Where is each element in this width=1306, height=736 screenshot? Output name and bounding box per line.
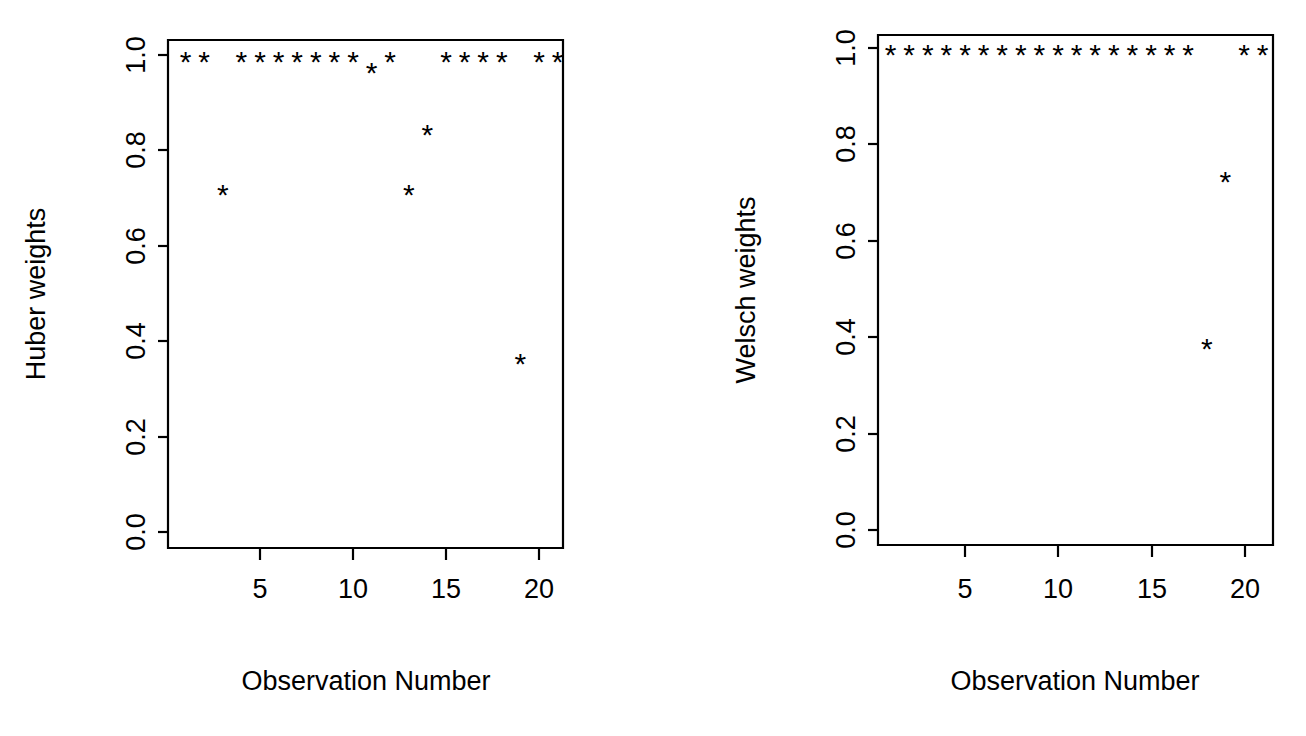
data-point-marker: * — [291, 45, 303, 78]
x-tick-label: 10 — [1043, 574, 1073, 604]
data-point-marker: * — [1182, 38, 1194, 71]
y-tick-label: 1.0 — [121, 36, 151, 74]
data-point-marker: * — [310, 45, 322, 78]
x-axis-ticks-right — [965, 545, 1245, 557]
data-point-marker: * — [1220, 165, 1232, 198]
panel-huber-weights: 1.0 0.8 0.6 0.4 0.2 0.0 5 10 15 20 Huber… — [0, 0, 653, 736]
x-axis-title: Observation Number — [950, 666, 1199, 696]
y-axis-ticks-right — [868, 48, 878, 530]
y-tick-label: 0.6 — [121, 227, 151, 265]
data-point-marker: * — [273, 45, 285, 78]
y-tick-label: 0.4 — [831, 318, 861, 356]
y-tick-label: 0.4 — [121, 322, 151, 360]
data-point-marker: * — [515, 347, 527, 380]
plot-frame-left — [168, 40, 563, 548]
y-tick-label: 0.8 — [831, 125, 861, 163]
data-point-marker: * — [403, 178, 415, 211]
data-point-marker: * — [254, 45, 266, 78]
data-point-marker: * — [459, 45, 471, 78]
data-point-marker: * — [1238, 38, 1250, 71]
data-point-marker: * — [384, 45, 396, 78]
data-point-marker: * — [217, 178, 229, 211]
data-point-marker: * — [366, 56, 378, 89]
data-point-marker: * — [1052, 38, 1064, 71]
data-point-marker: * — [329, 45, 341, 78]
y-axis-title: Welsch weights — [731, 196, 761, 383]
y-axis-tick-labels-right: 1.0 0.8 0.6 0.4 0.2 0.0 — [831, 29, 861, 549]
panel-welsch-weights: 1.0 0.8 0.6 0.4 0.2 0.0 5 10 15 20 Welsc… — [653, 0, 1306, 736]
x-axis-tick-labels-left: 5 10 15 20 — [252, 574, 554, 604]
y-tick-label: 0.8 — [121, 131, 151, 169]
data-point-marker: * — [885, 38, 897, 71]
data-point-marker: * — [996, 38, 1008, 71]
data-point-marker: * — [496, 45, 508, 78]
y-tick-label: 1.0 — [831, 29, 861, 67]
data-point-marker: * — [347, 45, 359, 78]
data-point-marker: * — [1201, 332, 1213, 365]
x-tick-label: 5 — [957, 574, 972, 604]
data-point-marker: * — [1015, 38, 1027, 71]
data-point-marker: * — [198, 45, 210, 78]
x-tick-label: 20 — [524, 574, 554, 604]
plot-box-border — [878, 35, 1273, 545]
data-point-marker: * — [903, 38, 915, 71]
x-tick-label: 20 — [1230, 574, 1260, 604]
data-point-marker: * — [941, 38, 953, 71]
data-point-marker: * — [1127, 38, 1139, 71]
figure-container: 1.0 0.8 0.6 0.4 0.2 0.0 5 10 15 20 Huber… — [0, 0, 1306, 736]
y-tick-label: 0.6 — [831, 222, 861, 260]
x-tick-label: 10 — [338, 574, 368, 604]
y-axis-ticks-left — [158, 55, 168, 532]
huber-weights-scatter-plot: 1.0 0.8 0.6 0.4 0.2 0.0 5 10 15 20 Huber… — [0, 0, 653, 736]
y-tick-label: 0.2 — [831, 415, 861, 453]
data-point-marker: * — [978, 38, 990, 71]
data-points-right: ********************* — [885, 38, 1269, 365]
data-point-marker: * — [1071, 38, 1083, 71]
data-points-left: ********************* — [180, 45, 564, 381]
data-point-marker: * — [1257, 38, 1269, 71]
data-point-marker: * — [552, 45, 564, 78]
data-point-marker: * — [1089, 38, 1101, 71]
y-tick-label: 0.2 — [121, 418, 151, 456]
data-point-marker: * — [533, 45, 545, 78]
y-tick-label: 0.0 — [831, 511, 861, 549]
x-tick-label: 15 — [1137, 574, 1167, 604]
data-point-marker: * — [236, 45, 248, 78]
data-point-marker: * — [1164, 38, 1176, 71]
x-tick-label: 5 — [252, 574, 267, 604]
data-point-marker: * — [1034, 38, 1046, 71]
x-axis-tick-labels-right: 5 10 15 20 — [957, 574, 1260, 604]
y-axis-tick-labels-left: 1.0 0.8 0.6 0.4 0.2 0.0 — [121, 36, 151, 551]
y-tick-label: 0.0 — [121, 513, 151, 551]
data-point-marker: * — [1145, 38, 1157, 71]
y-axis-title: Huber weights — [21, 208, 51, 381]
plot-frame-right — [878, 35, 1273, 545]
welsch-weights-scatter-plot: 1.0 0.8 0.6 0.4 0.2 0.0 5 10 15 20 Welsc… — [653, 0, 1306, 736]
data-point-marker: * — [1108, 38, 1120, 71]
x-axis-title: Observation Number — [241, 666, 490, 696]
data-point-marker: * — [180, 45, 192, 78]
data-point-marker: * — [422, 118, 434, 151]
data-point-marker: * — [440, 45, 452, 78]
x-tick-label: 15 — [431, 574, 461, 604]
data-point-marker: * — [922, 38, 934, 71]
x-axis-ticks-left — [260, 548, 539, 560]
data-point-marker: * — [959, 38, 971, 71]
data-point-marker: * — [477, 45, 489, 78]
plot-box-border — [168, 40, 563, 548]
